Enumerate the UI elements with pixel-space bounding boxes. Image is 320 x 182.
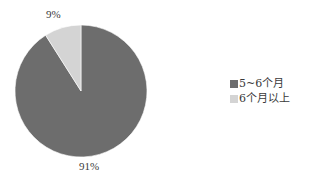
legend-label: 5~6个月 (239, 76, 284, 91)
slice-label-minor: 9% (46, 8, 61, 20)
legend-item-over-6-months: 6个月以上 (230, 91, 290, 106)
slice-label-major: 91% (79, 160, 99, 172)
legend-label: 6个月以上 (239, 91, 290, 106)
legend-item-5-6-months: 5~6个月 (230, 76, 290, 91)
legend: 5~6个月 6个月以上 (230, 76, 290, 106)
legend-swatch (230, 95, 238, 103)
legend-swatch (230, 80, 238, 88)
